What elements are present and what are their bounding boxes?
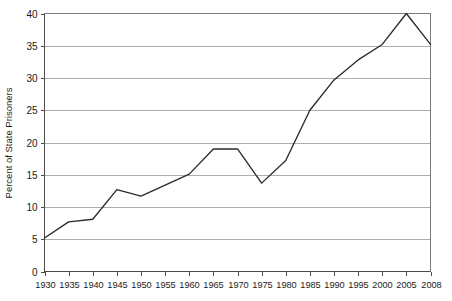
plot-frame: [44, 13, 431, 272]
y-tick-label-25: 25: [26, 105, 38, 116]
x-tick-label-1970: 1970: [228, 280, 248, 290]
y-axis-title: Percent of State Prisoners: [3, 87, 14, 198]
y-tick-label-35: 35: [26, 41, 38, 52]
x-tick-label-1965: 1965: [203, 280, 223, 290]
y-tick-label-40: 40: [26, 9, 38, 20]
x-tick-label-2000: 2000: [372, 280, 392, 290]
x-tick-label-1940: 1940: [83, 280, 103, 290]
x-tick-label-1935: 1935: [59, 280, 79, 290]
y-tick-label-0: 0: [32, 267, 38, 278]
x-tick-label-1980: 1980: [276, 280, 296, 290]
x-tick-label-1990: 1990: [324, 280, 344, 290]
x-tick-label-1945: 1945: [107, 280, 127, 290]
x-tick-label-1960: 1960: [179, 280, 199, 290]
x-tick-group: 1930193519401945195019551960196519701975…: [35, 272, 441, 290]
x-tick-label-2005: 2005: [396, 280, 416, 290]
x-tick-label-1975: 1975: [252, 280, 272, 290]
y-axis-title-group: Percent of State Prisoners: [3, 87, 14, 198]
y-tick-label-30: 30: [26, 73, 38, 84]
x-tick-label-1985: 1985: [300, 280, 320, 290]
y-tick-group: 0510152025303540: [26, 9, 44, 278]
line-chart: Percent of State Prisoners 0510152025303…: [0, 0, 452, 301]
x-tick-label-1950: 1950: [131, 280, 151, 290]
y-tick-label-10: 10: [26, 202, 38, 213]
series-group: [45, 14, 431, 238]
x-tick-label-2008: 2008: [421, 280, 441, 290]
gridline-group: [45, 47, 431, 240]
x-tick-label-1955: 1955: [155, 280, 175, 290]
x-tick-label-1930: 1930: [35, 280, 55, 290]
chart-canvas: Percent of State Prisoners 0510152025303…: [0, 0, 452, 301]
y-tick-label-20: 20: [26, 138, 38, 149]
series-line-percent-of-state-prisoners: [45, 14, 431, 238]
x-tick-label-1995: 1995: [348, 280, 368, 290]
y-tick-label-15: 15: [26, 170, 38, 181]
y-tick-label-5: 5: [32, 234, 38, 245]
